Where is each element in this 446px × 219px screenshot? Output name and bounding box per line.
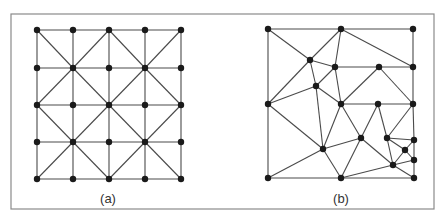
mesh-node [34,102,40,108]
mesh-node [265,175,271,181]
mesh-node [70,176,76,182]
mesh-edge [73,68,109,105]
mesh-edge [268,29,310,60]
mesh-node [320,146,326,152]
mesh-node [410,101,416,107]
mesh-node [142,102,148,108]
mesh-edge [387,104,413,138]
mesh-node [384,135,390,141]
mesh-node [178,139,184,145]
mesh-edge [37,142,73,179]
mesh-edge [335,67,341,104]
mesh-edge [341,104,361,138]
mesh-node [34,65,40,71]
mesh-edge [316,86,341,104]
mesh-edge [145,30,181,68]
mesh-edge [268,149,323,178]
mesh-node [142,176,148,182]
mesh-edge [378,104,387,138]
mesh-node [70,139,76,145]
mesh-edge [316,86,323,149]
mesh-edge [387,138,414,140]
mesh-node [376,64,382,70]
mesh-edge [323,138,361,149]
mesh-edge [37,30,73,68]
mesh-edge [37,68,73,105]
panel-b-unstructured-mesh: (b) [265,26,417,206]
mesh-edge [341,29,413,67]
mesh-node [106,102,112,108]
mesh-edge [268,104,323,149]
mesh-edge [268,60,310,104]
mesh-node [402,147,408,153]
mesh-figure: (a) (b) [0,0,446,219]
mesh-edge [73,142,109,179]
mesh-node [390,162,396,168]
mesh-node [332,64,338,70]
mesh-edge [145,142,181,179]
mesh-node [358,135,364,141]
mesh-node [178,102,184,108]
mesh-node [411,137,417,143]
mesh-edge [393,165,414,178]
mesh-node [265,26,271,32]
mesh-node [178,27,184,33]
mesh-edge [109,105,145,142]
mesh-node [106,27,112,33]
mesh-node [410,26,416,32]
mesh-edge [37,105,73,142]
mesh-node [142,139,148,145]
mesh-edge [413,104,414,140]
mesh-edge [109,68,145,105]
mesh-node [178,176,184,182]
mesh-edge [341,67,379,104]
mesh-node [106,176,112,182]
mesh-edge [145,105,181,142]
mesh-node [307,57,313,63]
mesh-node [375,101,381,107]
panel-a-structured-mesh: (a) [34,27,184,206]
mesh-node [313,83,319,89]
mesh-edge [341,138,361,178]
mesh-edge [361,104,378,138]
mesh-node [411,157,417,163]
mesh-node [338,26,344,32]
mesh-edge [109,142,145,179]
mesh-node [34,176,40,182]
panel-b-label: (b) [333,191,349,206]
mesh-edge [145,68,181,105]
mesh-node [106,139,112,145]
mesh-edge [323,104,341,149]
mesh-edge [341,165,393,178]
mesh-node [70,65,76,71]
mesh-node [338,101,344,107]
mesh-node [178,65,184,71]
mesh-node [411,175,417,181]
mesh-edge [310,60,316,86]
mesh-node [265,101,271,107]
panel-a-label: (a) [100,191,116,206]
mesh-edge [73,30,109,68]
mesh-node [34,27,40,33]
mesh-edge [379,67,413,104]
mesh-node [410,64,416,70]
mesh-edge [73,105,109,142]
mesh-node [70,27,76,33]
mesh-node [34,139,40,145]
mesh-edge [268,86,316,104]
mesh-node [338,175,344,181]
mesh-node [106,65,112,71]
mesh-edge [323,149,341,178]
mesh-edge [109,30,145,68]
mesh-node [142,27,148,33]
mesh-edge [316,67,335,86]
mesh-edge [310,60,335,67]
mesh-node [142,65,148,71]
mesh-node [70,102,76,108]
